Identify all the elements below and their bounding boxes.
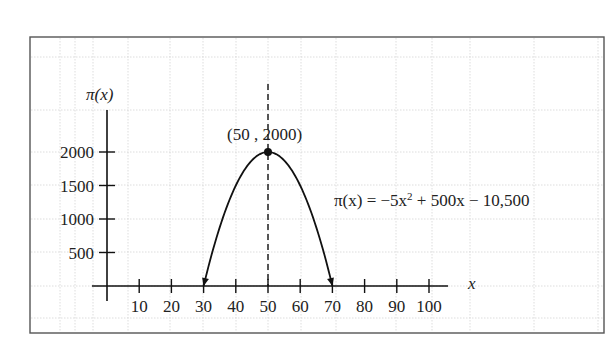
y-tick-label: 500 [69, 244, 95, 263]
x-tick-label: 30 [195, 297, 212, 316]
x-axis-label: x [467, 274, 476, 293]
x-tick-label: 50 [260, 297, 277, 316]
y-axis-label: π(x) [86, 85, 114, 104]
equation-label: π(x) = −5x2 + 500x − 10,500 [334, 190, 530, 210]
vertex-label: (50 , 2000) [227, 125, 302, 144]
x-tick-label: 100 [416, 297, 442, 316]
x-tick-label: 20 [163, 297, 180, 316]
x-tick-label: 10 [131, 297, 148, 316]
y-tick-label: 1000 [60, 210, 94, 229]
profit-function-chart: 102030405060708090100 500100015002000 π(… [0, 0, 614, 350]
x-tick-label: 80 [356, 297, 373, 316]
x-tick-label: 70 [324, 297, 341, 316]
x-tick-label: 40 [227, 297, 244, 316]
y-tick-label: 1500 [60, 177, 94, 196]
x-tick-label: 90 [388, 297, 405, 316]
vertex-point [264, 148, 272, 156]
x-tick-label: 60 [292, 297, 309, 316]
y-tick-label: 2000 [60, 143, 94, 162]
